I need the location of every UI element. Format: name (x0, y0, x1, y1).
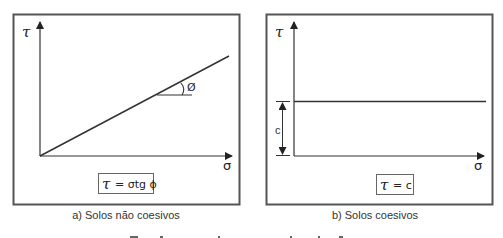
cropped-figure-caption-fragment (130, 236, 343, 238)
panel-a-angle-label: Ø (187, 81, 196, 94)
panel-b-y-label: τ (275, 23, 284, 41)
panel-b-formula-tau: τ (380, 176, 389, 194)
panel-b: τ σ c τ = c b) Solos coesivos (267, 15, 493, 222)
shear-strength-diagram: τ σ Ø τ = σtg ϕ a) Solos não coesivos τ … (0, 0, 503, 238)
panel-b-formula-text: = c (393, 179, 412, 192)
panel-a-caption: a) Solos não coesivos (72, 209, 180, 221)
panel-a-formula-tau: τ (102, 175, 111, 193)
panel-b-x-label: σ (474, 158, 482, 173)
panel-a-formula-text: = σtg ϕ (115, 178, 157, 191)
panel-a-angle-arc (181, 83, 184, 95)
panel-a-failure-envelope (40, 56, 229, 156)
panel-b-cohesion-label: c (275, 124, 281, 136)
panel-b-caption: b) Solos coesivos (332, 209, 419, 221)
panel-a: τ σ Ø τ = σtg ϕ a) Solos não coesivos (14, 15, 240, 222)
panel-a-y-label: τ (22, 23, 31, 41)
panel-a-x-label: σ (223, 158, 231, 173)
